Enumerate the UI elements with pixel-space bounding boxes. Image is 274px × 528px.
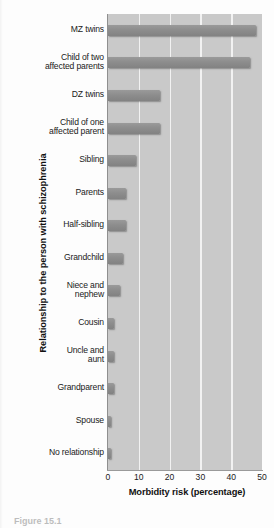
- category-label-line: Cousin: [12, 318, 104, 328]
- category-label: Cousin: [12, 318, 104, 328]
- scan-edge-artifact: [0, 0, 3, 528]
- category-label: Uncle andaunt: [12, 346, 104, 366]
- category-label: Grandparent: [12, 383, 104, 393]
- bar: [108, 285, 120, 296]
- x-tick-label-10: 10: [134, 472, 144, 482]
- category-label: Parents: [12, 188, 104, 198]
- category-label: DZ twins: [12, 90, 104, 100]
- bar: [108, 448, 111, 459]
- category-label: No relationship: [12, 448, 104, 458]
- category-label-line: No relationship: [12, 448, 104, 458]
- bar: [108, 90, 160, 101]
- category-label-line: Sibling: [12, 155, 104, 165]
- category-label-line: Grandparent: [12, 383, 104, 393]
- category-label-line: Grandchild: [12, 253, 104, 263]
- category-label: Sibling: [12, 155, 104, 165]
- category-label: Spouse: [12, 416, 104, 426]
- bar: [108, 351, 114, 362]
- x-axis-tick-labels: 01020304050: [108, 472, 262, 486]
- category-label-line: nephew: [12, 290, 104, 300]
- bar: [108, 123, 160, 134]
- x-tick-label-40: 40: [226, 472, 236, 482]
- category-label-line: aunt: [12, 355, 104, 365]
- figure-container: Relationship to the person with schizoph…: [0, 0, 274, 528]
- bar: [108, 383, 114, 394]
- x-tick-label-0: 0: [106, 472, 111, 482]
- x-tick-label-50: 50: [257, 472, 267, 482]
- gridline-20: [170, 14, 171, 470]
- category-label-line: affected parents: [12, 62, 104, 72]
- category-label: Child of oneaffected parent: [12, 118, 104, 138]
- category-label: MZ twins: [12, 25, 104, 35]
- category-label-column: MZ twinsChild of twoaffected parentsDZ t…: [14, 14, 104, 470]
- category-label: Niece andnephew: [12, 281, 104, 301]
- category-label: Half-sibling: [12, 220, 104, 230]
- category-label: Child of twoaffected parents: [12, 53, 104, 73]
- category-label-line: DZ twins: [12, 90, 104, 100]
- category-label-line: Parents: [12, 188, 104, 198]
- gridline-40: [231, 14, 232, 470]
- bar: [108, 416, 111, 427]
- category-label: Grandchild: [12, 253, 104, 263]
- bar: [108, 220, 126, 231]
- bar: [108, 155, 136, 166]
- category-label-line: Spouse: [12, 416, 104, 426]
- x-tick-label-20: 20: [165, 472, 175, 482]
- gridline-10: [139, 14, 140, 470]
- bar: [108, 57, 250, 68]
- bar: [108, 25, 256, 36]
- gridline-30: [200, 14, 201, 470]
- x-tick-label-30: 30: [196, 472, 206, 482]
- x-axis-label: Morbidity risk (percentage): [100, 487, 274, 497]
- bar: [108, 253, 123, 264]
- bar: [108, 188, 126, 199]
- category-label-line: Half-sibling: [12, 220, 104, 230]
- category-label-line: MZ twins: [12, 25, 104, 35]
- bar: [108, 318, 114, 329]
- category-label-line: affected parent: [12, 127, 104, 137]
- plot-area: [108, 14, 262, 470]
- figure-caption: Figure 15.1: [14, 516, 62, 527]
